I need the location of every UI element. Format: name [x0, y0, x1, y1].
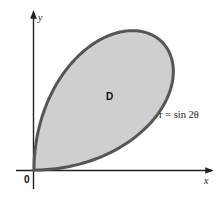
y-axis-label: y — [37, 12, 43, 23]
polar-region-diagram: y x 0 D r = sin 2θ — [0, 0, 220, 199]
region-d — [34, 31, 173, 170]
curve-label: r = sin 2θ — [159, 109, 199, 120]
region-label: D — [106, 91, 113, 102]
origin-label: 0 — [24, 174, 30, 185]
x-axis-label: x — [203, 175, 209, 186]
